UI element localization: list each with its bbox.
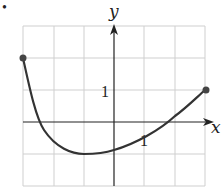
left-endpoint [20, 55, 27, 62]
axes [23, 32, 207, 186]
y-tick-label: 1 [101, 83, 109, 100]
bullet: • [2, 0, 7, 15]
x-tick-label: 1 [140, 132, 148, 149]
right-endpoint [203, 87, 210, 94]
graph: • x y 1 1 [0, 0, 223, 189]
y-axis-label: y [108, 1, 119, 21]
x-axis-label: x [211, 117, 221, 137]
